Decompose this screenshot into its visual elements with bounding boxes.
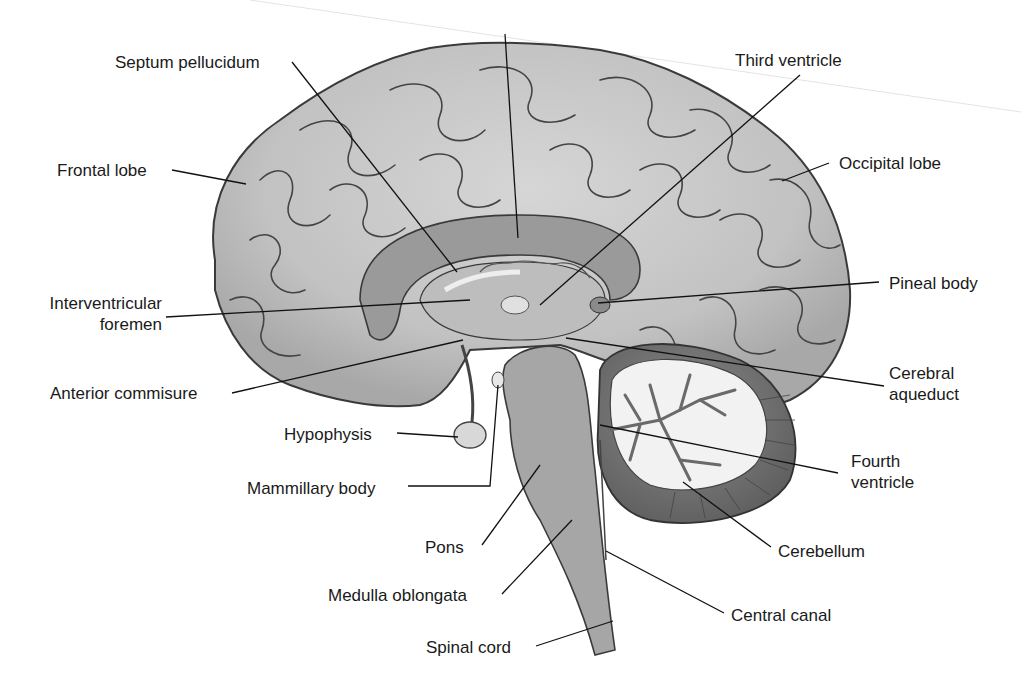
label-medulla-oblongata: Medulla oblongata (328, 585, 467, 606)
label-third-ventricle: Third ventricle (735, 50, 842, 71)
label-interventricular-foremen: Interventricular foremen (23, 293, 162, 335)
label-fourth-ventricle: Fourth ventricle (851, 451, 914, 493)
label-frontal-lobe: Frontal lobe (57, 160, 147, 181)
brain-illustration (0, 0, 1021, 679)
label-spinal-cord: Spinal cord (426, 637, 511, 658)
leader-central-canal (606, 551, 724, 613)
brainstem (503, 346, 615, 655)
thalamus-adhesion (501, 296, 529, 314)
label-mammillary-body: Mammillary body (247, 478, 375, 499)
leader-hypophysis (397, 433, 458, 437)
label-anterior-commisure: Anterior commisure (50, 383, 197, 404)
pineal-body-shape (590, 297, 610, 313)
label-occipital-lobe: Occipital lobe (839, 153, 941, 174)
brain-diagram: Septum pellucidum Third ventricle Fronta… (0, 0, 1021, 679)
label-central-canal: Central canal (731, 605, 831, 626)
label-cerebral-aqueduct: Cerebral aqueduct (889, 363, 959, 405)
label-hypophysis: Hypophysis (284, 424, 372, 445)
hypophysis-shape (454, 422, 486, 448)
label-pons: Pons (425, 537, 464, 558)
label-septum-pellucidum: Septum pellucidum (115, 52, 260, 73)
label-pineal-body: Pineal body (889, 273, 978, 294)
label-cerebellum: Cerebellum (778, 541, 865, 562)
